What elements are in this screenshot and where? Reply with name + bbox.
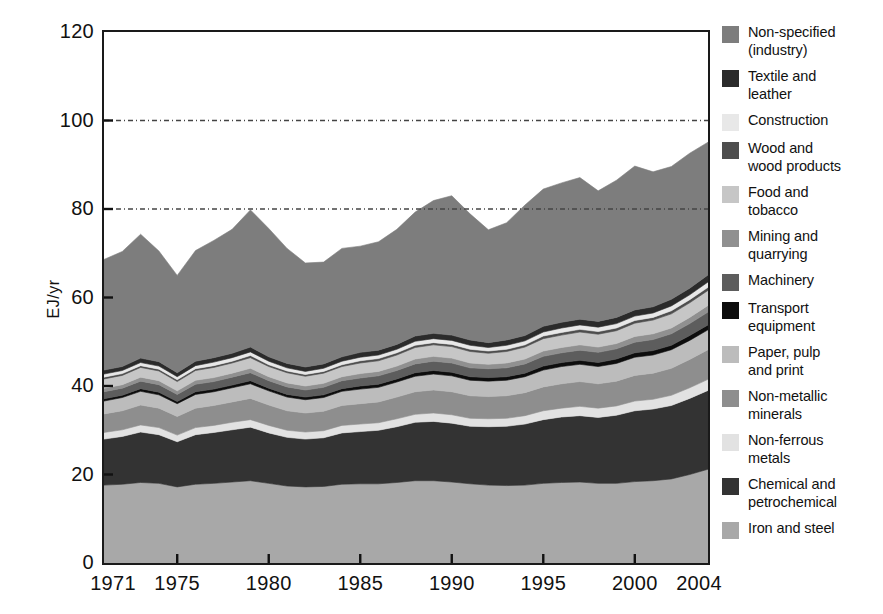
legend-item[interactable]: Food and tobacco [722, 184, 880, 219]
legend-item[interactable]: Non-specified (industry) [722, 24, 880, 59]
plot-area [102, 30, 710, 565]
legend-item[interactable]: Machinery [722, 272, 880, 291]
legend-item-label: Chemical and petrochemical [748, 476, 837, 511]
y-tick-label: 120 [38, 21, 94, 41]
x-tick-label: 2000 [612, 572, 658, 594]
legend-item[interactable]: Transport equipment [722, 300, 880, 335]
legend-item-label: Non-ferrous metals [748, 432, 823, 467]
legend-item[interactable]: Non-ferrous metals [722, 432, 880, 467]
x-axis-tick-labels: 19711975198019851990199520002004 [0, 572, 883, 606]
x-tick-label: 1980 [246, 572, 292, 594]
legend-item[interactable]: Construction [722, 112, 880, 131]
legend-swatch-icon [722, 70, 739, 87]
legend-swatch-icon [722, 522, 739, 539]
x-tick-label: 1975 [154, 572, 200, 594]
legend-swatch-icon [722, 346, 739, 363]
y-tick-label: 100 [38, 110, 94, 130]
legend-swatch-icon [722, 142, 739, 159]
chart-legend: Non-specified (industry)Textile and leat… [722, 24, 880, 548]
legend-item[interactable]: Wood and wood products [722, 140, 880, 175]
x-tick-label: 1971 [90, 572, 136, 594]
legend-item-label: Machinery [748, 272, 814, 290]
legend-item[interactable]: Textile and leather [722, 68, 880, 103]
legend-swatch-icon [722, 186, 739, 203]
legend-swatch-icon [722, 114, 739, 131]
legend-swatch-icon [722, 434, 739, 451]
x-tick-label: 1995 [520, 572, 566, 594]
legend-item[interactable]: Mining and quarrying [722, 228, 880, 263]
stacked-area-svg [104, 32, 708, 563]
legend-swatch-icon [722, 26, 739, 43]
chart-figure: EJ/yr 020406080100120 197119751980198519… [0, 0, 883, 614]
legend-item-label: Paper, pulp and print [748, 344, 820, 379]
x-tick-label: 2004 [676, 572, 722, 594]
y-tick-label: 20 [38, 464, 94, 484]
legend-item-label: Transport equipment [748, 300, 815, 335]
legend-item-label: Textile and leather [748, 68, 816, 103]
x-tick-label: 1985 [337, 572, 383, 594]
legend-item-label: Wood and wood products [748, 140, 841, 175]
legend-item[interactable]: Non-metallic minerals [722, 388, 880, 423]
legend-swatch-icon [722, 274, 739, 291]
legend-swatch-icon [722, 390, 739, 407]
x-tick-label: 1990 [429, 572, 475, 594]
y-tick-label: 0 [38, 552, 94, 572]
legend-item[interactable]: Paper, pulp and print [722, 344, 880, 379]
legend-swatch-icon [722, 230, 739, 247]
legend-item[interactable]: Iron and steel [722, 520, 880, 539]
legend-item-label: Mining and quarrying [748, 228, 818, 263]
legend-item-label: Iron and steel [748, 520, 834, 538]
legend-swatch-icon [722, 478, 739, 495]
legend-item-label: Construction [748, 112, 828, 130]
y-tick-label: 60 [38, 287, 94, 307]
legend-item[interactable]: Chemical and petrochemical [722, 476, 880, 511]
y-tick-label: 40 [38, 375, 94, 395]
legend-item-label: Food and tobacco [748, 184, 808, 219]
legend-swatch-icon [722, 302, 739, 319]
y-tick-label: 80 [38, 198, 94, 218]
legend-item-label: Non-specified (industry) [748, 24, 835, 59]
y-axis-tick-labels: 020406080100120 [30, 0, 94, 614]
legend-item-label: Non-metallic minerals [748, 388, 827, 423]
